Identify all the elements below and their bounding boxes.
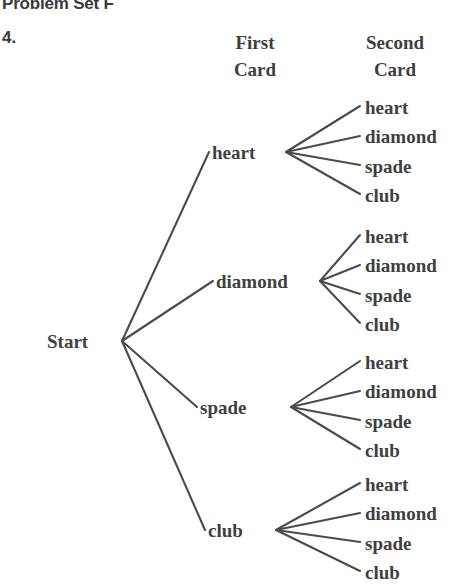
tree-node-second-card-spade-spade: spade — [365, 412, 411, 431]
tree-node-first-card-spade: spade — [200, 398, 246, 417]
tree-node-first-card-club: club — [208, 521, 243, 540]
tree-node-second-card-heart-diamond: diamond — [365, 127, 437, 146]
tree-node-second-card-heart-spade: spade — [365, 157, 411, 176]
tree-node-first-card-diamond: diamond — [216, 272, 288, 291]
tree-node-second-card-spade-diamond: diamond — [365, 382, 437, 401]
tree-node-second-card-club-diamond: diamond — [365, 504, 437, 523]
tree-node-start: Start — [47, 332, 88, 351]
tree-node-second-card-diamond-spade: spade — [365, 286, 411, 305]
edge-start-to-club — [122, 341, 205, 530]
edge-start-to-spade — [122, 341, 197, 407]
tree-node-second-card-club-club: club — [365, 563, 400, 582]
edge-club-to-diamond-1 — [276, 513, 360, 530]
edge-spade-to-heart-0 — [291, 361, 360, 407]
tree-node-second-card-heart-club: club — [365, 186, 400, 205]
tree-node-second-card-diamond-diamond: diamond — [365, 256, 437, 275]
edge-club-to-heart-0 — [276, 483, 360, 530]
tree-node-first-card-heart: heart — [212, 143, 255, 162]
tree-node-second-card-club-heart: heart — [365, 475, 408, 494]
tree-node-second-card-diamond-heart: heart — [365, 227, 408, 246]
tree-node-second-card-diamond-club: club — [365, 315, 400, 334]
worksheet-page: Problem Set F 4. First Card Second Card … — [0, 0, 472, 587]
tree-node-second-card-spade-club: club — [365, 441, 400, 460]
tree-node-second-card-heart-heart: heart — [365, 98, 408, 117]
tree-node-second-card-club-spade: spade — [365, 534, 411, 553]
tree-node-second-card-spade-heart: heart — [365, 353, 408, 372]
edge-heart-to-heart-0 — [286, 106, 360, 152]
